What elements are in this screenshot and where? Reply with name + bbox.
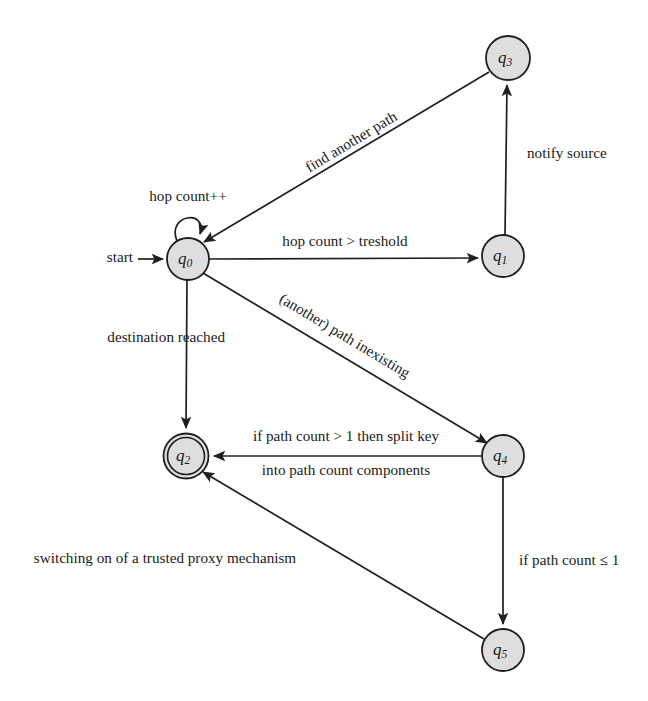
- edge-q0-to-q2: [186, 280, 187, 428]
- state-subscript-q4: 4: [501, 454, 507, 466]
- edge-label-path-count-le-one: if path count ≤ 1: [519, 551, 619, 568]
- state-subscript-q1: 1: [501, 254, 507, 266]
- state-node-q0[interactable]: q0: [167, 238, 209, 280]
- edge-label-destination-reached: destination reached: [107, 328, 225, 345]
- state-subscript-q3: 3: [505, 56, 512, 68]
- state-subscript-q0: 0: [186, 257, 192, 269]
- edge-label-trusted-proxy: switching on of a trusted proxy mechanis…: [34, 549, 297, 566]
- state-subscript-q5: 5: [501, 648, 507, 660]
- edge-label-split-key-line2: into path count components: [262, 461, 430, 478]
- state-subscript-q2: 2: [184, 454, 190, 466]
- diagram-canvas: q0 q1 q2 q3 q4: [0, 0, 648, 701]
- edge-label-path-inexisting: (another) path inexisting: [276, 290, 414, 383]
- edge-label-split-key-line1: if path count > 1 then split key: [253, 427, 440, 444]
- start-label: start: [107, 248, 134, 265]
- edge-label-notify-source: notify source: [527, 144, 607, 161]
- state-node-q5[interactable]: q5: [482, 629, 524, 671]
- state-node-q2[interactable]: q2: [164, 434, 209, 479]
- state-node-q3[interactable]: q3: [486, 36, 530, 80]
- edge-q0-to-q4: [203, 273, 487, 443]
- edge-label-find-another-path: find another path: [302, 107, 400, 175]
- state-machine-diagram: q0 q1 q2 q3 q4: [0, 0, 648, 701]
- state-node-q1[interactable]: q1: [482, 235, 524, 277]
- edge-q3-to-q0: [204, 72, 489, 242]
- edge-q0-to-q1: [209, 258, 478, 259]
- edge-label-hop-count-increment: hop count++: [149, 187, 226, 204]
- state-node-q4[interactable]: q4: [482, 435, 524, 477]
- edge-label-hop-count-threshold: hop count > treshold: [282, 232, 408, 249]
- edge-q1-to-q3: [505, 85, 507, 235]
